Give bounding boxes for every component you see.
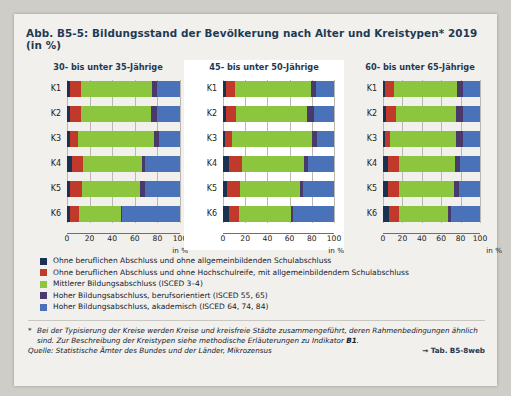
- bar-segment: [385, 81, 394, 97]
- chart-panel-30-35: 30- bis unter 35-Jährige K1K2K3K4K5K6 02…: [28, 60, 188, 250]
- bar-segment: [145, 181, 180, 197]
- legend-item: Ohne beruflichen Abschluss und ohne allg…: [40, 256, 487, 265]
- legend-label: Hoher Bildungsabschluss, akademisch (ISC…: [53, 302, 268, 311]
- bar-row: K2: [383, 106, 480, 122]
- bar-segment: [79, 206, 121, 222]
- bar-row: K1: [223, 81, 334, 97]
- bar-segment: [157, 106, 180, 122]
- x-tick-label: 80: [307, 234, 317, 243]
- notes-block: * Bei der Typisierung der Kreise werden …: [28, 326, 485, 355]
- x-tick-label: 20: [85, 234, 95, 243]
- row-label-k2: K2: [31, 106, 61, 122]
- x-tick-label: 0: [65, 234, 70, 243]
- bar-segment: [72, 156, 83, 172]
- bar-row: K6: [67, 206, 180, 222]
- footnote-text: Bei der Typisierung der Kreise werden Kr…: [37, 326, 485, 345]
- footnote: * Bei der Typisierung der Kreise werden …: [28, 326, 485, 345]
- bar-segment: [78, 131, 154, 147]
- x-tick-label: 0: [381, 234, 386, 243]
- bar-row: K6: [383, 206, 480, 222]
- bar-segment: [399, 156, 455, 172]
- bar-segment: [459, 181, 480, 197]
- source-text: Quelle: Statistische Ämter des Bundes un…: [28, 346, 272, 355]
- bar-segment: [307, 106, 314, 122]
- bar-segment: [70, 181, 81, 197]
- bar-segment: [390, 131, 456, 147]
- legend-item: Ohne beruflichen Abschluss und ohne Hoch…: [40, 268, 487, 277]
- row-label-k5: K5: [187, 181, 217, 197]
- bar-segment: [151, 106, 158, 122]
- row-label-k5: K5: [31, 181, 61, 197]
- gridline: [334, 80, 335, 223]
- x-tick-label: 20: [240, 234, 250, 243]
- bar-rows: K1K2K3K4K5K6: [223, 81, 334, 222]
- row-label-k3: K3: [31, 131, 61, 147]
- row-label-k3: K3: [347, 131, 377, 147]
- bar-segment: [81, 106, 151, 122]
- bar-segment: [242, 156, 304, 172]
- bar-segment: [388, 156, 399, 172]
- legend-item: Hoher Bildungsabschluss, akademisch (ISC…: [40, 302, 487, 311]
- bar-segment: [227, 181, 239, 197]
- bar-segment: [463, 81, 480, 97]
- table-reference-link[interactable]: → Tab. B5-8web: [422, 346, 485, 355]
- bar-segment: [81, 81, 152, 97]
- panel-title: 30- bis unter 35-Jährige: [28, 62, 188, 72]
- bar-row: K4: [383, 156, 480, 172]
- bar-segment: [82, 181, 141, 197]
- footnote-marker: *: [28, 326, 37, 345]
- bar-segment: [308, 156, 334, 172]
- bar-segment: [451, 206, 480, 222]
- row-label-k6: K6: [187, 206, 217, 222]
- row-label-k2: K2: [187, 106, 217, 122]
- row-label-k5: K5: [347, 181, 377, 197]
- panel-title: 60- bis unter 65-Jährige: [344, 62, 496, 72]
- bar-row: K3: [67, 131, 180, 147]
- x-tick-label: 40: [263, 234, 273, 243]
- row-label-k4: K4: [347, 156, 377, 172]
- bar-row: K1: [67, 81, 180, 97]
- bar-segment: [314, 106, 334, 122]
- bar-segment: [463, 131, 479, 147]
- x-tick-label: 0: [221, 234, 226, 243]
- footnote-indicator-ref: B1: [346, 336, 356, 345]
- x-tick-label: 40: [107, 234, 117, 243]
- bar-segment: [463, 106, 480, 122]
- chart-panel-60-65: 60- bis unter 65-Jährige K1K2K3K4K5K6 02…: [344, 60, 496, 250]
- source-row: Quelle: Statistische Ämter des Bundes un…: [28, 346, 485, 355]
- axis-unit-label: in %: [328, 246, 344, 255]
- bar-segment: [229, 206, 239, 222]
- row-label-k1: K1: [347, 81, 377, 97]
- legend-label: Mittlerer Bildungsabschluss (ISCED 3–4): [53, 279, 203, 288]
- legend-swatch: [40, 304, 47, 311]
- bar-segment: [83, 156, 142, 172]
- row-label-k1: K1: [187, 81, 217, 97]
- bar-row: K2: [223, 106, 334, 122]
- bar-segment: [456, 131, 464, 147]
- legend-label: Ohne beruflichen Abschluss und ohne Hoch…: [53, 268, 409, 277]
- bar-segment: [70, 81, 80, 97]
- bar-segment: [388, 181, 399, 197]
- plot-area: K1K2K3K4K5K6: [67, 81, 180, 222]
- legend-item: Mittlerer Bildungsabschluss (ISCED 3–4): [40, 279, 487, 288]
- row-label-k6: K6: [31, 206, 61, 222]
- bar-segment: [293, 206, 334, 222]
- bar-segment: [70, 206, 79, 222]
- bar-segment: [399, 181, 454, 197]
- bar-segment: [386, 106, 396, 122]
- bar-row: K5: [223, 181, 334, 197]
- legend-swatch: [40, 269, 47, 276]
- bar-segment: [396, 106, 456, 122]
- bar-row: K5: [67, 181, 180, 197]
- gridline: [180, 80, 181, 223]
- legend-label: Hoher Bildungsabschluss, berufsorientier…: [53, 291, 268, 300]
- legend-label: Ohne beruflichen Abschluss und ohne allg…: [53, 256, 331, 265]
- bar-segment: [303, 181, 334, 197]
- bar-segment: [317, 131, 334, 147]
- x-tick-label: 60: [436, 234, 446, 243]
- bar-segment: [460, 156, 480, 172]
- gridline: [480, 80, 481, 223]
- bar-segment: [239, 206, 291, 222]
- bar-segment: [232, 131, 312, 147]
- bar-segment: [70, 106, 80, 122]
